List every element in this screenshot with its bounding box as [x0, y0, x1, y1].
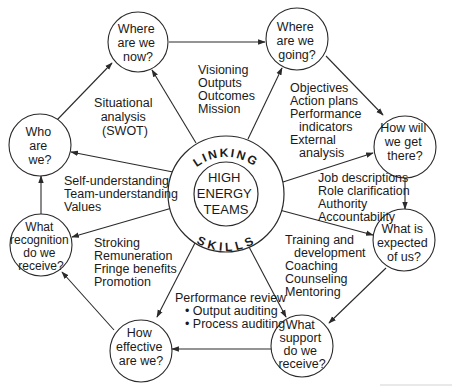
- label-objectives: Objectives Action plans Performance indi…: [290, 81, 365, 160]
- spoke-to-where-now: [152, 70, 196, 143]
- svg-text:How will we get th: How will we get there?: [380, 121, 429, 163]
- node-how-effective-are-we: How effective are we?: [110, 320, 172, 382]
- svg-text:Where are we now?: Where are we now?: [117, 22, 158, 64]
- spoke-to-who-are-we: [71, 152, 173, 172]
- spoke-to-where-going: [248, 68, 282, 139]
- center-hub: LINKING SKILLS HIGH ENERGY TEAMS: [168, 136, 284, 254]
- node-where-are-we-now: Where are we now?: [108, 12, 168, 72]
- label-stroking: Stroking Remuneration Fringe benefits Pr…: [94, 236, 180, 289]
- label-visioning: Visioning Outputs Outcomes Mission: [198, 63, 258, 116]
- high-energy-teams-diagram: LINKING SKILLS HIGH ENERGY TEAMS Where a…: [0, 0, 452, 387]
- scan-edge-divider: [380, 384, 452, 386]
- svg-text:Where are we going: Where are we going?: [276, 20, 317, 62]
- label-performance-review: Performance review • Output auditing • P…: [175, 291, 290, 331]
- svg-text:Who are we?: Who are we?: [25, 125, 54, 167]
- label-situational-analysis: Situational analysis (SWOT): [94, 96, 156, 138]
- label-training: Training and development Coaching Counse…: [285, 233, 369, 299]
- node-where-are-we-going: Where are we going?: [266, 8, 328, 70]
- node-how-will-we-get-there: How will we get there?: [374, 116, 436, 178]
- node-who-are-we: Who are we?: [9, 114, 71, 176]
- node-what-recognition-do-we-receive: What recognition do we receive?: [10, 214, 72, 276]
- label-self-understanding: Self-understanding Team-understanding Va…: [64, 174, 181, 214]
